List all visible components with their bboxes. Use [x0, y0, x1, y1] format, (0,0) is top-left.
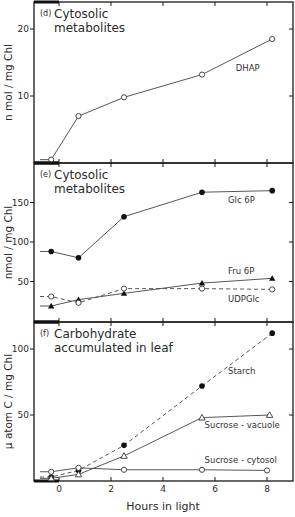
open-circle-marker	[199, 467, 204, 472]
series-label: DHAP	[236, 63, 260, 73]
filled-circle-marker	[269, 330, 275, 336]
y-tick-label: 50	[18, 277, 30, 287]
y-tick-label: 50	[18, 410, 30, 420]
panel-f: 0246850100µ atom C / mg Chl(f)Carbohydra…	[2, 321, 293, 495]
y-tick-label: 100	[12, 344, 29, 354]
open-circle-marker	[76, 300, 81, 305]
x-tick-label: 4	[160, 484, 166, 494]
panel-letter: (e)	[40, 170, 51, 179]
panel-title: metabolites	[54, 182, 125, 196]
x-tick-label: 6	[212, 484, 218, 494]
open-circle-marker	[199, 286, 204, 291]
series-label: Sucrose - vacuole	[205, 420, 280, 430]
filled-circle-marker	[48, 249, 54, 255]
series-label: Fru 6P	[228, 266, 254, 276]
series-line	[40, 468, 267, 472]
filled-circle-marker	[121, 443, 127, 449]
panel-letter: (d)	[40, 9, 51, 18]
open-circle-marker	[199, 72, 204, 77]
open-circle-marker	[49, 157, 54, 162]
open-circle-marker	[49, 469, 54, 474]
series-label: Glc 6P	[228, 195, 255, 205]
series-label: Starch	[228, 366, 255, 376]
series-label: Sucrose - cytosol	[205, 455, 277, 465]
panel-title: metabolites	[54, 21, 125, 35]
series-line	[40, 39, 272, 160]
dark-period-bar	[34, 162, 59, 165]
open-circle-marker	[49, 294, 54, 299]
panel-title: Carbohydrate	[54, 327, 136, 341]
open-circle-marker	[264, 468, 269, 473]
panel-d: 1020n mol / mg Chl(d)Cytosolicmetabolite…	[2, 1, 293, 165]
series-udpglc: UDPGlc	[40, 286, 275, 305]
x-tick-label: 2	[108, 484, 114, 494]
open-circle-marker	[121, 95, 126, 100]
y-axis-label: n mol / mg Chl	[2, 44, 14, 121]
filled-circle-marker	[199, 189, 205, 195]
x-tick-label: 8	[264, 484, 270, 494]
figure-chart: 1020n mol / mg Chl(d)Cytosolicmetabolite…	[0, 0, 295, 517]
open-circle-marker	[76, 114, 81, 119]
series-label: UDPGlc	[228, 294, 260, 304]
dark-period-bar	[34, 321, 59, 324]
open-triangle-marker	[121, 453, 127, 459]
open-triangle-marker	[266, 412, 272, 418]
filled-circle-marker	[269, 188, 275, 194]
dark-period-bar	[34, 1, 59, 4]
panel-e: 50100150nmol / mg Chl(e)Cytosolicmetabol…	[2, 162, 293, 324]
x-axis-label: Hours in light	[126, 500, 200, 513]
series-glc-6p: Glc 6P	[40, 188, 275, 261]
open-circle-marker	[76, 465, 81, 470]
x-tick-label: 0	[56, 484, 62, 494]
y-axis-label: nmol / mg Chl	[2, 206, 14, 280]
open-circle-marker	[121, 467, 126, 472]
open-circle-marker	[270, 36, 275, 41]
open-circle-marker	[121, 286, 126, 291]
filled-circle-marker	[121, 214, 127, 220]
series-dhap: DHAP	[40, 36, 275, 162]
y-axis-label: µ atom C / mg Chl	[2, 354, 14, 449]
dark-period-bar	[34, 480, 59, 483]
filled-circle-marker	[76, 255, 82, 261]
chart-panels: 1020n mol / mg Chl(d)Cytosolicmetabolite…	[2, 1, 293, 495]
y-tick-label: 150	[12, 198, 29, 208]
panel-title: Cytosolic	[54, 168, 108, 182]
panel-letter: (f)	[40, 329, 49, 338]
y-tick-label: 100	[12, 237, 29, 247]
y-tick-label: 20	[18, 24, 30, 34]
panel-title: Cytosolic	[54, 7, 108, 21]
filled-triangle-marker	[269, 275, 275, 281]
y-tick-label: 10	[18, 91, 30, 101]
filled-circle-marker	[199, 383, 205, 389]
panel-title: accumulated in leaf	[54, 341, 173, 355]
open-circle-marker	[270, 287, 275, 292]
